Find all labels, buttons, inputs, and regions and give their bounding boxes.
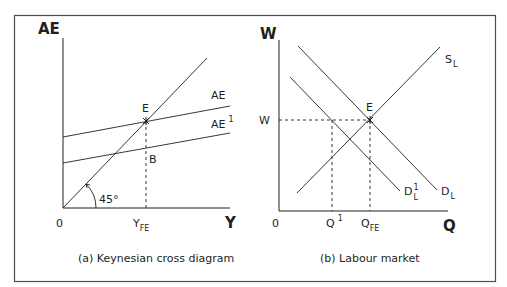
figure-frame: [15, 16, 496, 282]
demand-label: DL: [441, 185, 455, 201]
ae-curve-label: AE: [211, 89, 226, 102]
yfe-label: YFE: [132, 217, 149, 233]
point-e-label: E: [142, 102, 149, 115]
origin-label: 0: [272, 217, 279, 230]
angle-arc-icon: [86, 184, 96, 208]
angle-label: 45°: [99, 193, 119, 206]
w-axis-label: W: [260, 25, 277, 43]
q-axis-label: Q: [443, 217, 456, 235]
economics-figure: AE Y 0 YFE 45° E B AE AE1 (a) Keynesian …: [0, 0, 507, 287]
panel-b-caption: (b) Labour market: [320, 252, 420, 265]
ae1-curve-label: AE1: [211, 115, 234, 131]
supply-label: SL: [445, 53, 458, 69]
ae-axis-label: AE: [38, 20, 60, 38]
wage-label: W: [259, 114, 270, 127]
y-axis-label: Y: [224, 214, 237, 232]
q1-label: Q1: [326, 214, 343, 230]
demand1-label: D1L: [404, 183, 419, 202]
point-b-label: B: [149, 153, 157, 166]
panel-b-labour-market: W Q 0 W Q1 QFE E SL DL D1L (b) Labour ma…: [259, 25, 458, 265]
point-e-label: E: [366, 101, 373, 114]
origin-label: 0: [56, 217, 63, 230]
ae1-curve: [63, 133, 230, 163]
panel-a-caption: (a) Keynesian cross diagram: [78, 252, 234, 265]
qfe-label: QFE: [361, 217, 379, 233]
panel-a-keynesian-cross: AE Y 0 YFE 45° E B AE AE1 (a) Keynesian …: [38, 20, 237, 265]
